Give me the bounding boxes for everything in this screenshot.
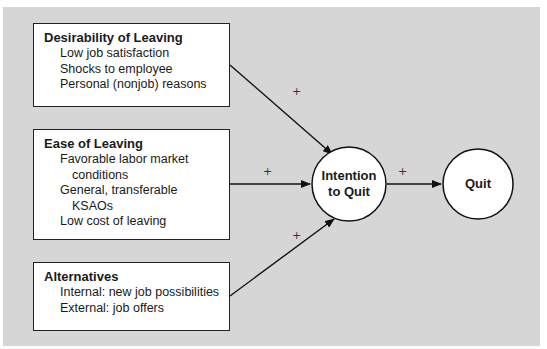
box-item: Internal: new job possibilities: [44, 285, 229, 301]
node-label: Quit: [465, 176, 491, 192]
node-quit: Quit: [443, 149, 513, 219]
node-intention-to-quit: Intention to Quit: [312, 147, 386, 221]
plus-sign: +: [292, 85, 301, 98]
box-item: KSAOs: [44, 199, 229, 215]
node-label: to Quit: [328, 184, 370, 200]
box-title: Desirability of Leaving: [44, 30, 229, 45]
box-ease: Ease of Leaving Favorable labor market c…: [33, 129, 230, 240]
arrow-desirability: [230, 65, 332, 154]
box-item: External: job offers: [44, 301, 229, 317]
box-item: Shocks to employee: [44, 62, 229, 78]
box-item: conditions: [44, 168, 229, 184]
box-item: Low job satisfaction: [44, 46, 229, 62]
arrow-alternatives: [230, 219, 334, 296]
box-item: Low cost of leaving: [44, 214, 229, 230]
box-item: Favorable labor market: [44, 152, 229, 168]
box-title: Alternatives: [44, 269, 229, 284]
box-title: Ease of Leaving: [44, 136, 229, 151]
plus-sign: +: [292, 229, 301, 242]
box-item: General, transferable: [44, 183, 229, 199]
plus-sign: +: [263, 165, 272, 178]
box-desirability: Desirability of Leaving Low job satisfac…: [33, 23, 230, 107]
box-item: Personal (nonjob) reasons: [44, 77, 229, 93]
plus-sign: +: [398, 165, 407, 178]
box-alternatives: Alternatives Internal: new job possibili…: [33, 262, 230, 331]
node-label: Intention: [322, 168, 377, 184]
